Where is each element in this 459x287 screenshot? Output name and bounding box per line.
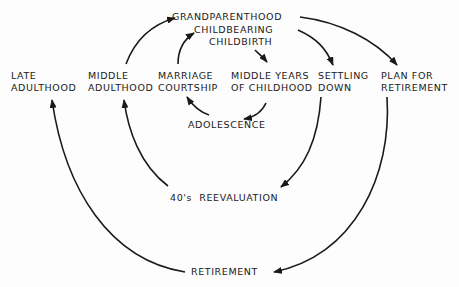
arrow-childbirth-to-middle-years	[255, 50, 267, 62]
node-retirement: RETIREMENT	[191, 266, 258, 278]
node-childbearing: CHILDBEARING	[194, 24, 273, 36]
life-cycle-diagram: GRANDPARENTHOOD CHILDBEARING CHILDBIRTH …	[0, 0, 459, 287]
node-middle-adulthood: MIDDLE ADULTHOOD	[88, 70, 153, 94]
node-childbirth: CHILDBIRTH	[209, 36, 272, 48]
node-plan-for-retirement: PLAN FOR RETIREMENT	[381, 70, 448, 94]
node-middle-years-of-childhood: MIDDLE YEARS OF CHILDHOOD	[231, 70, 313, 94]
node-adolescence: ADOLESCENCE	[188, 119, 266, 131]
node-late-adulthood: LATE ADULTHOOD	[11, 70, 76, 94]
arrow-middle-adulthood-to-grandparenthood	[126, 18, 175, 64]
node-grandparenthood: GRANDPARENTHOOD	[172, 11, 282, 23]
node-marriage-courtship: MARRIAGE COURTSHIP	[158, 70, 218, 94]
arrow-grandparenthood-to-plan	[300, 17, 397, 65]
arrow-childbearing-to-settling	[298, 30, 333, 65]
arrow-reevaluation-to-middle-adulthood	[124, 100, 168, 186]
node-40s-reevaluation: 40's REEVALUATION	[170, 192, 278, 204]
arrow-retirement-to-late-adulthood	[52, 100, 185, 272]
arrow-adolescence-to-marriage	[187, 97, 209, 115]
arrow-plan-to-retirement	[274, 97, 387, 272]
arrow-middle-years-to-adolescence	[244, 103, 266, 119]
arrow-marriage-to-childbearing	[178, 33, 194, 64]
node-settling-down: SETTLING DOWN	[318, 70, 369, 94]
arrow-settling-to-reevaluation	[281, 97, 321, 187]
